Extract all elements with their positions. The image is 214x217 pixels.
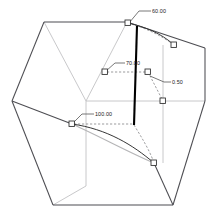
dashed-arc-upper-right [128, 23, 174, 45]
dimension-label-60: 60.00 [152, 8, 166, 14]
cube-light-edges [44, 22, 205, 205]
dimension-label-70: 70.00 [126, 60, 140, 66]
diagram-canvas: 60.00 70.00 100.00 0.50 [0, 0, 214, 217]
cube-edge-bottomapex-to-front [154, 163, 173, 205]
surface-curves [72, 23, 174, 163]
node-marker-mid-right[interactable] [160, 98, 165, 103]
leader-line-70 [106, 63, 125, 71]
wireframe-cube-figure: 60.00 70.00 100.00 0.50 [0, 0, 214, 217]
node-marker-mid-left[interactable] [102, 69, 107, 74]
node-markers [69, 20, 176, 165]
cube-edge-left-lower [12, 101, 53, 205]
node-marker-bottom[interactable] [151, 160, 156, 165]
thick-diagonal-line [134, 26, 137, 125]
cube-edge-right-lower [173, 101, 205, 205]
curve-lower-light-arc [72, 124, 154, 163]
dashed-arc-lower-right [134, 125, 154, 163]
cube-edge-left-mid-horizontal [12, 101, 72, 124]
leader-lines [73, 11, 171, 123]
node-marker-left-base[interactable] [69, 121, 74, 126]
leader-line-050 [150, 76, 171, 82]
dimension-label-050: 0.50 [172, 79, 183, 85]
leader-line-60 [129, 11, 151, 23]
curve-upper-dark-arc [128, 23, 174, 45]
leader-line-100 [73, 114, 94, 123]
cube-edge-left-upper [12, 22, 44, 101]
cube-edge-topback-to-apex [44, 22, 86, 101]
dimension-label-100: 100.00 [95, 111, 112, 117]
node-marker-upper-right[interactable] [171, 42, 176, 47]
node-marker-top-left[interactable] [125, 20, 130, 25]
cube-edge-apexlow-to-front [53, 186, 86, 205]
node-marker-mid-center[interactable] [145, 69, 150, 74]
cube-edge-apex-to-topright [86, 22, 127, 101]
